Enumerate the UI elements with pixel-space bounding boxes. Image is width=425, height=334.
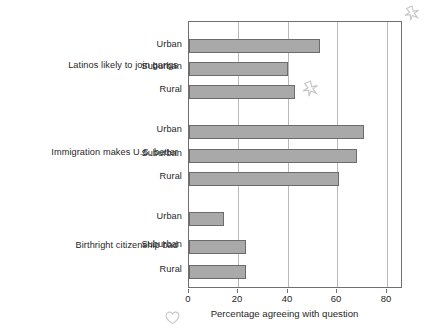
xtick-label-0: 0: [185, 293, 190, 304]
xtick-label-20: 20: [232, 293, 243, 304]
bar-gangs-suburban: [189, 62, 288, 76]
bar-gangs-urban: [189, 39, 320, 53]
category-label-birthright-suburban: Suburban: [120, 239, 182, 249]
category-label-immigration-rural: Rural: [120, 171, 182, 181]
bar-gangs-rural: [189, 85, 295, 99]
gridline-80: [387, 22, 388, 287]
category-label-birthright-urban: Urban: [120, 211, 182, 221]
bar-immigration-rural: [189, 172, 339, 186]
x-axis-title: Percentage agreeing with question: [0, 308, 425, 319]
category-label-immigration-suburban: Suburban: [120, 148, 182, 158]
category-label-birthright-rural: Rural: [120, 264, 182, 274]
bar-immigration-urban: [189, 125, 364, 139]
xtick-label-80: 80: [381, 293, 392, 304]
x-axis-title-text: Percentage agreeing with question: [211, 308, 359, 319]
star-mark-top-right: [404, 5, 420, 21]
star-mark-near-rural-gangs: [302, 80, 319, 97]
xtick-label-40: 40: [282, 293, 293, 304]
category-label-gangs-rural: Rural: [120, 84, 182, 94]
category-label-gangs-urban: Urban: [120, 39, 182, 49]
heart-mark-bottom-left: [165, 311, 180, 325]
category-label-immigration-urban: Urban: [120, 124, 182, 134]
bar-immigration-suburban: [189, 149, 357, 163]
category-label-gangs-suburban: Suburban: [120, 61, 182, 71]
bar-birthright-rural: [189, 265, 246, 279]
xtick-label-60: 60: [331, 293, 342, 304]
bar-chart: Latinos likely to join gangs Immigration…: [0, 0, 425, 334]
bar-birthright-urban: [189, 212, 224, 226]
bar-birthright-suburban: [189, 240, 246, 254]
plot-area: [188, 21, 402, 288]
